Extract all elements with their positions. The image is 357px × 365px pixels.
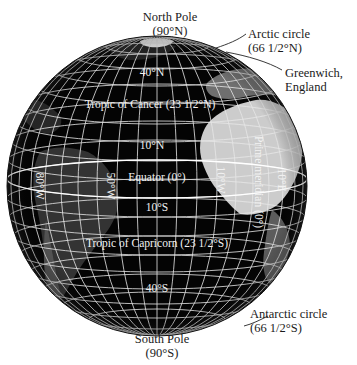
- label-tropic-capricorn: Tropic of Capricorn (23 1/2°S): [86, 237, 228, 250]
- greenwich-line2: England: [285, 80, 343, 94]
- label-80w: 80°W: [34, 173, 46, 200]
- south-pole-label: South Pole (90°S): [117, 332, 207, 360]
- south-pole-coord: (90°S): [117, 346, 207, 360]
- label-50w: 50°W: [105, 173, 117, 200]
- label-equator: Equator (0°): [128, 171, 185, 184]
- label-10w: 10°W: [215, 167, 227, 194]
- north-pole-coord: (90°N): [125, 24, 215, 38]
- label-10n: 10°N: [140, 139, 165, 151]
- greenwich-label: Greenwich, England: [285, 66, 343, 94]
- north-pole-title: North Pole: [125, 10, 215, 24]
- antarctic-circle-coord: (66 1/2°S): [250, 321, 327, 335]
- greenwich-line1: Greenwich,: [285, 66, 343, 80]
- north-pole-label: North Pole (90°N): [125, 10, 215, 38]
- antarctic-circle-title: Antarctic circle: [250, 307, 327, 321]
- antarctic-circle-label: Antarctic circle (66 1/2°S): [250, 307, 327, 335]
- label-10s: 10°S: [146, 201, 169, 213]
- label-40n: 40°N: [140, 66, 165, 78]
- arctic-leader: [216, 34, 246, 48]
- label-40s: 40°S: [146, 282, 169, 294]
- label-10e: 10°E: [276, 168, 288, 191]
- arctic-circle-label: Arctic circle (66 1/2°N): [248, 27, 310, 55]
- arctic-circle-coord: (66 1/2°N): [248, 41, 310, 55]
- arctic-circle-title: Arctic circle: [248, 27, 310, 41]
- globe-diagram: 40°N Tropic of Cancer (23 1/2°N) 10°N Eq…: [0, 0, 357, 365]
- label-tropic-cancer: Tropic of Cancer (23 1/2°N): [85, 98, 216, 111]
- south-pole-title: South Pole: [117, 332, 207, 346]
- label-prime-meridian: Prime meridian (0°): [252, 136, 265, 228]
